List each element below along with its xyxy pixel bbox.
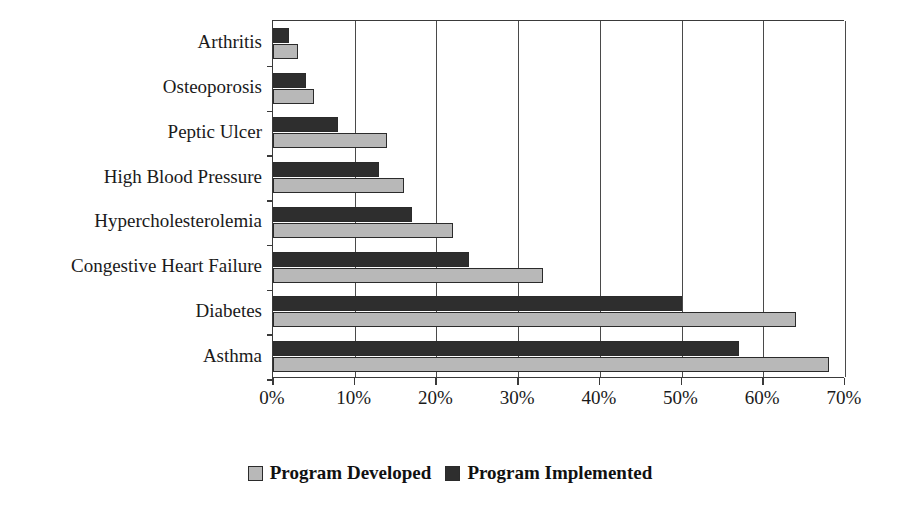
legend-label: Program Developed: [270, 462, 432, 484]
x-axis-label-10pct: 10%: [336, 388, 371, 407]
bar-program-developed: [273, 223, 453, 238]
category-band: [273, 245, 844, 290]
bar-program-developed: [273, 357, 829, 372]
x-axis-tick: [681, 378, 683, 385]
bar-program-implemented: [273, 296, 682, 311]
bar-program-developed: [273, 312, 796, 327]
x-axis-tick: [599, 378, 601, 385]
x-axis-label-50pct: 50%: [663, 388, 698, 407]
x-axis-label-30pct: 30%: [500, 388, 535, 407]
x-axis-label-70pct: 70%: [826, 388, 861, 407]
legend-label: Program Implemented: [467, 462, 652, 484]
x-axis-label-60pct: 60%: [745, 388, 780, 407]
y-axis-label-high-blood-pressure: High Blood Pressure: [104, 167, 262, 186]
bar-program-implemented: [273, 28, 289, 43]
x-axis-label-0pct: 0%: [259, 388, 284, 407]
x-axis-label-20pct: 20%: [418, 388, 453, 407]
x-axis-tick: [762, 378, 764, 385]
bar-program-implemented: [273, 341, 739, 356]
y-axis-label-hypercholesterolemia: Hypercholesterolemia: [94, 211, 262, 230]
category-band: [273, 21, 844, 66]
bar-program-developed: [273, 178, 404, 193]
bar-program-implemented: [273, 207, 412, 222]
chart-legend: Program DevelopedProgram Implemented: [0, 462, 900, 484]
category-band: [273, 290, 844, 335]
bar-chart-figure: ArthritisOsteoporosisPeptic UlcerHigh Bl…: [0, 0, 900, 514]
y-axis-label-congestive-heart-failure: Congestive Heart Failure: [71, 256, 262, 275]
bar-program-developed: [273, 89, 314, 104]
bar-program-implemented: [273, 252, 469, 267]
x-axis-tick: [354, 378, 356, 385]
bar-program-implemented: [273, 73, 306, 88]
legend-item-developed[interactable]: Program Developed: [248, 462, 432, 484]
x-axis-tick: [272, 378, 274, 385]
bar-program-implemented: [273, 162, 379, 177]
y-axis-category-labels: ArthritisOsteoporosisPeptic UlcerHigh Bl…: [0, 20, 262, 378]
plot-area: [272, 20, 844, 378]
category-band: [273, 66, 844, 111]
x-axis-tick: [844, 378, 846, 385]
y-axis-label-arthritis: Arthritis: [198, 32, 262, 51]
x-axis-tick: [517, 378, 519, 385]
y-axis-label-diabetes: Diabetes: [196, 301, 262, 320]
x-axis-label-40pct: 40%: [581, 388, 616, 407]
y-axis-label-osteoporosis: Osteoporosis: [163, 77, 262, 96]
bar-program-developed: [273, 133, 387, 148]
y-axis-label-asthma: Asthma: [203, 346, 262, 365]
category-band: [273, 200, 844, 245]
gridline-70%: [845, 21, 846, 377]
y-axis-label-peptic-ulcer: Peptic Ulcer: [168, 122, 262, 141]
legend-item-implemented[interactable]: Program Implemented: [445, 462, 652, 484]
bar-program-developed: [273, 44, 298, 59]
x-axis: 0%10%20%30%40%50%60%70%: [272, 378, 844, 418]
bar-program-developed: [273, 268, 543, 283]
legend-swatch-implemented-icon: [445, 466, 460, 481]
category-band: [273, 334, 844, 379]
category-band: [273, 155, 844, 200]
x-axis-tick: [435, 378, 437, 385]
category-band: [273, 111, 844, 156]
bar-program-implemented: [273, 117, 338, 132]
legend-swatch-developed-icon: [248, 466, 263, 481]
